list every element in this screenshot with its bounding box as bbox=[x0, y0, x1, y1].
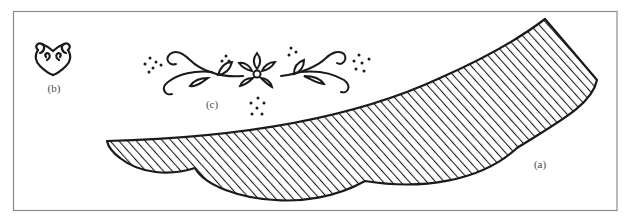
motif-b-heart-scroll bbox=[36, 43, 70, 75]
label-b: (b) bbox=[48, 83, 61, 94]
label-a: (a) bbox=[534, 159, 546, 170]
motif-c-floral-scroll bbox=[164, 52, 349, 94]
motif-a-scalloped-band bbox=[100, 15, 605, 210]
dot-clusters bbox=[144, 47, 371, 116]
figure-canvas bbox=[0, 0, 625, 216]
label-c: (c) bbox=[206, 99, 218, 110]
